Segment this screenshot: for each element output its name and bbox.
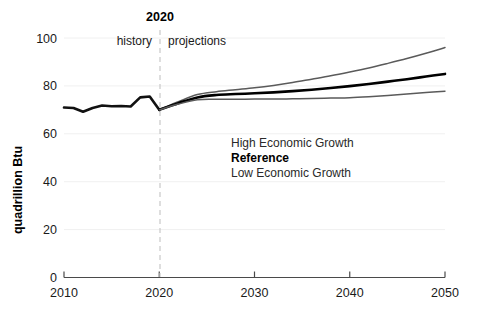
history-label: history [117, 34, 152, 48]
y-tick-label: 60 [43, 127, 57, 141]
x-tick-label: 2050 [431, 286, 459, 300]
y-tick-label: 0 [50, 271, 57, 285]
x-tick-label: 2030 [241, 286, 269, 300]
x-tick-label: 2040 [336, 286, 364, 300]
y-tick-label: 40 [43, 175, 57, 189]
chart-container: 020406080100 quadrillion Btu 20102020203… [0, 0, 480, 320]
legend-item-high-economic-growth: High Economic Growth [231, 136, 354, 150]
legend-item-low-economic-growth: Low Economic Growth [231, 166, 351, 180]
y-tick-label: 20 [43, 223, 57, 237]
divider-year-label: 2020 [146, 10, 174, 24]
legend-item-reference: Reference [231, 151, 289, 165]
x-tick-label: 2010 [50, 286, 78, 300]
y-axis-title: quadrillion Btu [11, 146, 25, 234]
y-tick-label: 80 [43, 79, 57, 93]
x-tick-label: 2020 [145, 286, 173, 300]
energy-consumption-line-chart: 020406080100 quadrillion Btu 20102020203… [0, 0, 480, 320]
y-tick-label: 100 [36, 32, 57, 46]
projections-label: projections [168, 34, 226, 48]
